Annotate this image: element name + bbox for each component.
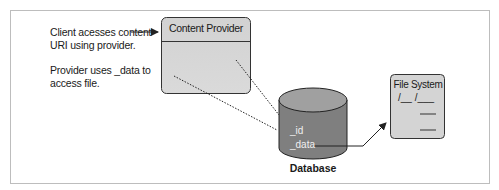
database-label: Database [279, 162, 347, 174]
content-provider-title: Content Provider [162, 22, 250, 34]
file-system-path: /__ /___ [398, 92, 434, 103]
db-field-data: _data [290, 139, 315, 151]
file-system-title: File System [391, 79, 445, 90]
db-field-id: _id [290, 125, 303, 137]
